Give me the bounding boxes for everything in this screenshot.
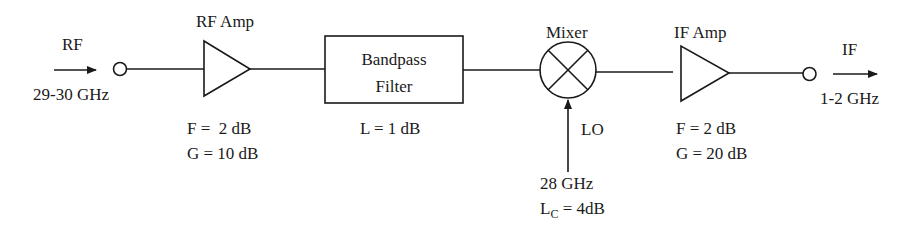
rf-amp-triangle-icon <box>204 41 250 96</box>
filter-title-line1: Bandpass <box>361 50 426 69</box>
mixer-conversion-loss: LC = 4dB <box>540 199 605 221</box>
lo-label: LO <box>581 120 604 139</box>
rf-input-label: RF <box>62 35 83 54</box>
rf-amp-title: RF Amp <box>196 12 254 31</box>
if-output: IF 1-2 GHz <box>803 40 879 108</box>
if-amp-noise-figure: F = 2 dB <box>676 119 736 138</box>
if-output-frequency: 1-2 GHz <box>820 89 879 108</box>
input-port-terminal-icon <box>114 63 127 76</box>
bandpass-filter: Bandpass Filter L = 1 dB <box>325 36 463 138</box>
rf-input-frequency: 29-30 GHz <box>33 85 109 104</box>
if-amp-triangle-icon <box>681 46 729 101</box>
if-output-label: IF <box>842 40 857 59</box>
if-amp-gain: G = 20 dB <box>676 144 747 163</box>
filter-title-line2: Filter <box>376 77 413 96</box>
mixer: Mixer LO 28 GHz LC = 4dB <box>540 23 605 221</box>
lo-frequency: 28 GHz <box>540 174 594 193</box>
rf-amp-noise-figure: F = 2 dB <box>187 119 251 138</box>
rf-amplifier: RF Amp F = 2 dB G = 10 dB <box>187 12 258 163</box>
output-port-terminal-icon <box>803 68 816 81</box>
rf-amp-gain: G = 10 dB <box>187 144 258 163</box>
filter-loss: L = 1 dB <box>360 119 420 138</box>
if-amp-title: IF Amp <box>674 23 726 42</box>
rf-input: RF 29-30 GHz <box>33 35 127 104</box>
mixer-title: Mixer <box>546 23 588 42</box>
if-amplifier: IF Amp F = 2 dB G = 20 dB <box>674 23 747 163</box>
